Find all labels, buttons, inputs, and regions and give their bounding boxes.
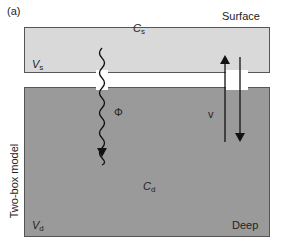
surface-label: Surface <box>222 10 260 22</box>
side-label: Two-box model <box>8 131 20 231</box>
surface-concentration-label: Cs <box>133 22 145 36</box>
flux-arrowhead-icon <box>97 148 107 157</box>
surface-volume-label: Vs <box>32 58 43 72</box>
flux-label: Φ <box>114 106 123 118</box>
deep-concentration-label: Cd <box>143 180 155 194</box>
connections-layer <box>0 0 291 245</box>
deep-volume-label: Vd <box>32 219 44 233</box>
wavy-flux-arrow-icon <box>100 48 105 165</box>
exchange-label: v <box>208 108 214 120</box>
deep-label: Deep <box>232 219 258 231</box>
